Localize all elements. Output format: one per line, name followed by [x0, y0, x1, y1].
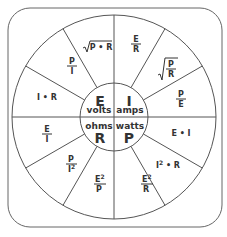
svg-text:E: E [133, 35, 138, 44]
formula-e-times-i: E • I [171, 129, 190, 138]
svg-text:I • R: I • R [37, 93, 57, 102]
amps-unit: amps [116, 105, 143, 115]
svg-text:I: I [71, 67, 74, 76]
svg-text:E: E [44, 125, 49, 134]
svg-text:E • I: E • I [171, 129, 190, 138]
svg-text:P: P [96, 185, 102, 194]
ohms-law-wheel: E volts I amps ohms R watts P I • R P I … [0, 0, 227, 237]
svg-text:P: P [168, 60, 174, 69]
svg-text:R: R [133, 45, 139, 54]
svg-text:R: R [143, 185, 149, 194]
svg-text:R: R [168, 70, 174, 79]
watts-symbol: P [124, 130, 134, 146]
formula-i-times-r: I • R [37, 93, 57, 102]
volts-unit: volts [87, 105, 112, 115]
svg-text:E: E [178, 100, 183, 109]
svg-text:P: P [69, 57, 75, 66]
svg-text:P • R: P • R [90, 43, 113, 52]
ohms-symbol: R [95, 130, 106, 146]
svg-text:P: P [178, 90, 184, 99]
svg-text:I: I [46, 135, 49, 144]
